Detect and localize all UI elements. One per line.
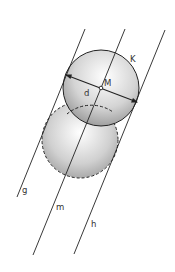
label-h: h (91, 219, 96, 229)
label-m-center: M (104, 78, 111, 88)
label-d: d (84, 88, 89, 98)
center-point-m (99, 86, 103, 90)
label-m-line: m (56, 202, 64, 212)
sphere-between-parallel-lines-diagram: K M d g m h (0, 0, 175, 272)
label-k: K (130, 54, 136, 64)
label-g: g (22, 185, 27, 195)
